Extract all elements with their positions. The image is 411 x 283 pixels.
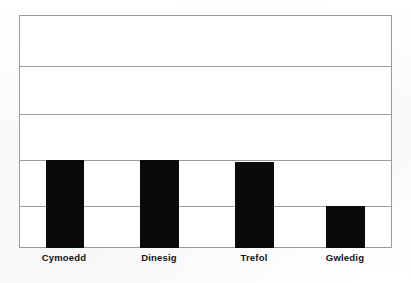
category-axis-labels: Cymoedd Dinesig Trefol Gwledig [19,252,392,270]
bar-dinesig [140,160,179,248]
bars-layer [19,15,392,248]
category-label-cymoedd: Cymoedd [24,252,104,263]
category-label-trefol: Trefol [214,252,294,263]
bar-cymoedd [46,160,84,248]
bar-gwledig [326,206,365,248]
category-label-dinesig: Dinesig [119,252,199,263]
bar-trefol [235,162,274,248]
bar-chart: Cymoedd Dinesig Trefol Gwledig [0,0,411,283]
category-label-gwledig: Gwledig [305,252,385,263]
